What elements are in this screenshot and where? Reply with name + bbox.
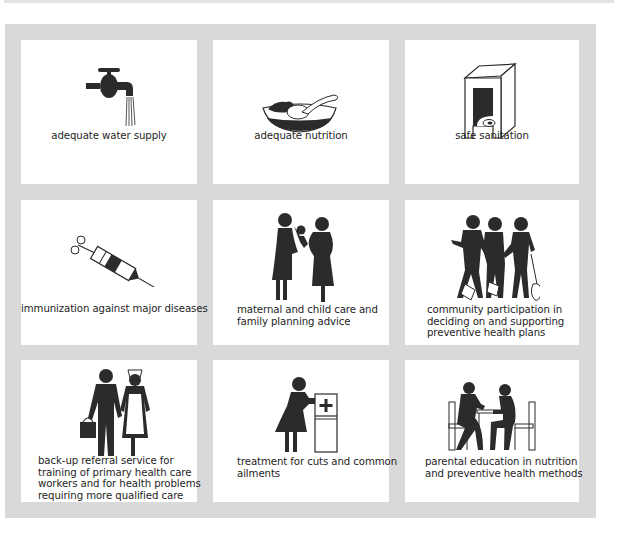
panel-nutrition: adequate nutrition [213,40,389,184]
food-bowl-icon [258,90,343,135]
caption-community: community participation in deciding on a… [427,304,564,339]
caption-sanitation: safe sanitation [405,130,579,142]
water-tap-icon [81,58,141,133]
panel-education: parental education in nutrition and prev… [405,360,579,502]
panel-immunization: immunization against major diseases [21,200,197,345]
top-rule [4,0,614,3]
caption-immunization: immunization against major diseases [21,303,197,315]
panel-sanitation: safe sanitation [405,40,579,184]
doctor-nurse-icon [76,368,156,458]
panel-maternal: maternal and child care and family plann… [213,200,389,345]
caption-nutrition: adequate nutrition [213,130,389,142]
caption-treatment: treatment for cuts and common ailments [237,456,397,479]
caption-education: parental education in nutrition and prev… [425,456,582,479]
caption-maternal: maternal and child care and family plann… [237,304,378,327]
panel-treatment: treatment for cuts and common ailments [213,360,389,502]
two-people-at-table-icon [447,382,537,452]
first-aid-cabinet-icon [273,376,338,456]
syringe-icon [69,232,159,287]
caption-water: adequate water supply [21,130,197,142]
caption-referral: back-up referral service for training of… [38,455,201,501]
workers-with-shovels-icon [445,214,540,304]
mother-child-icon [268,212,343,302]
panel-water: adequate water supply [21,40,197,184]
panel-community: community participation in deciding on a… [405,200,579,345]
panel-referral: back-up referral service for training of… [21,360,197,502]
